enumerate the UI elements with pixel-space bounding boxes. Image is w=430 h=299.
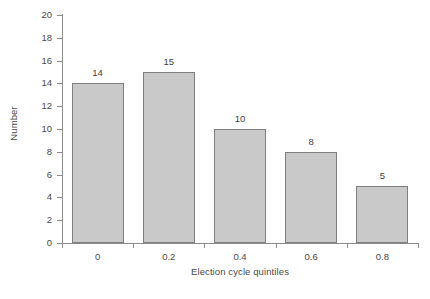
bar-value-label: 5 <box>352 171 412 181</box>
y-axis-tick-label: 18 <box>22 33 52 43</box>
x-axis-tick <box>62 243 63 248</box>
x-axis-line <box>62 243 419 244</box>
x-axis-tick <box>418 243 419 248</box>
y-axis-tick-label: 20 <box>22 10 52 20</box>
x-axis-tick <box>204 243 205 248</box>
y-axis-tick-label: 4 <box>22 192 52 202</box>
x-axis-tick-label: 0.2 <box>139 252 199 262</box>
y-axis-line <box>62 14 63 244</box>
x-axis-tick-label: 0 <box>68 252 128 262</box>
x-axis-tick <box>347 243 348 248</box>
y-axis-tick-label-text: 18 <box>26 33 52 43</box>
bar <box>285 152 337 243</box>
x-axis-tick-label: 0.4 <box>210 252 270 262</box>
x-axis-tick-label: 0.8 <box>352 252 412 262</box>
y-axis-tick-label-text: 10 <box>26 124 52 134</box>
y-axis-tick <box>57 175 62 176</box>
y-axis-tick <box>57 38 62 39</box>
y-axis-tick-label-text: 8 <box>26 147 52 157</box>
bar <box>356 186 408 243</box>
y-axis-tick <box>57 197 62 198</box>
y-axis-tick-label-text: 16 <box>26 56 52 66</box>
y-axis-tick-label-text: 14 <box>26 78 52 88</box>
y-axis-tick-label: 8 <box>22 147 52 157</box>
y-axis-tick <box>57 152 62 153</box>
y-axis-tick-label-text: 6 <box>26 170 52 180</box>
y-axis-tick <box>57 83 62 84</box>
x-axis-tick <box>133 243 134 248</box>
x-axis-tick <box>276 243 277 248</box>
y-axis-tick <box>57 61 62 62</box>
y-axis-tick-label: 2 <box>22 215 52 225</box>
bar <box>72 83 124 243</box>
y-axis-tick-label-text: 2 <box>26 215 52 225</box>
y-axis-tick-label-text: 12 <box>26 101 52 111</box>
y-axis-title: Number <box>8 89 19 159</box>
bar-chart: Number 02468101214161820 14151085 00.20.… <box>0 0 430 299</box>
y-axis-tick-label: 14 <box>22 78 52 88</box>
bar-value-label: 15 <box>139 57 199 67</box>
bar-value-label: 8 <box>281 137 341 147</box>
y-axis-tick <box>57 15 62 16</box>
y-axis-tick-label: 12 <box>22 101 52 111</box>
bar-value-label: 10 <box>210 114 270 124</box>
bar <box>143 72 195 243</box>
bar <box>214 129 266 243</box>
y-axis-tick <box>57 129 62 130</box>
y-axis-tick-label-text: 4 <box>26 192 52 202</box>
y-axis-tick-label: 0 <box>22 238 52 248</box>
x-axis-tick-label: 0.6 <box>281 252 341 262</box>
y-axis-tick-label-text: 0 <box>26 238 52 248</box>
x-axis-title: Election cycle quintiles <box>62 266 418 277</box>
y-axis-tick <box>57 106 62 107</box>
y-axis-tick-label: 10 <box>22 124 52 134</box>
y-axis-tick <box>57 220 62 221</box>
y-axis-tick-label: 16 <box>22 56 52 66</box>
bar-value-label: 14 <box>68 68 128 78</box>
y-axis-tick-label-text: 20 <box>26 10 52 20</box>
y-axis-tick-label: 6 <box>22 170 52 180</box>
